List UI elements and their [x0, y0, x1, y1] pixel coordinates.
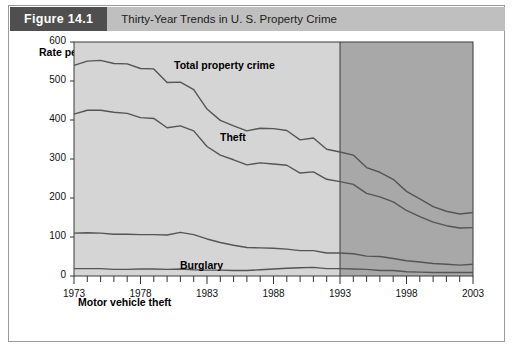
figure-header: Figure 14.1 Thirty-Year Trends in U. S. … [10, 7, 505, 31]
x-axis-label: 1993 [320, 288, 360, 299]
y-axis-label: 400 [32, 113, 66, 124]
figure-frame: Figure 14.1 Thirty-Year Trends in U. S. … [8, 5, 505, 342]
x-axis-label: 1983 [187, 288, 227, 299]
y-axis-label: 0 [32, 269, 66, 280]
y-axis-label: 600 [32, 35, 66, 46]
y-axis-label: 100 [32, 230, 66, 241]
plot-area: 0100200300400500600197319781983198819931… [10, 31, 505, 342]
x-axis-label: 1998 [387, 288, 427, 299]
shaded-region [340, 42, 473, 276]
series-label: Total property crime [174, 59, 275, 71]
figure-title: Thirty-Year Trends in U. S. Property Cri… [107, 7, 505, 31]
chart-body: Rate per 1,000 households 01002003004005… [10, 31, 503, 340]
series-label: Theft [220, 131, 246, 143]
x-axis-label: 2003 [453, 288, 493, 299]
figure-number-label: Figure 14.1 [10, 7, 107, 31]
series-label: Motor vehicle theft [78, 296, 171, 308]
series-label: Burglary [180, 259, 223, 271]
x-axis-label: 1988 [254, 288, 294, 299]
y-axis-label: 300 [32, 152, 66, 163]
y-axis-label: 200 [32, 191, 66, 202]
y-axis-label: 500 [32, 74, 66, 85]
